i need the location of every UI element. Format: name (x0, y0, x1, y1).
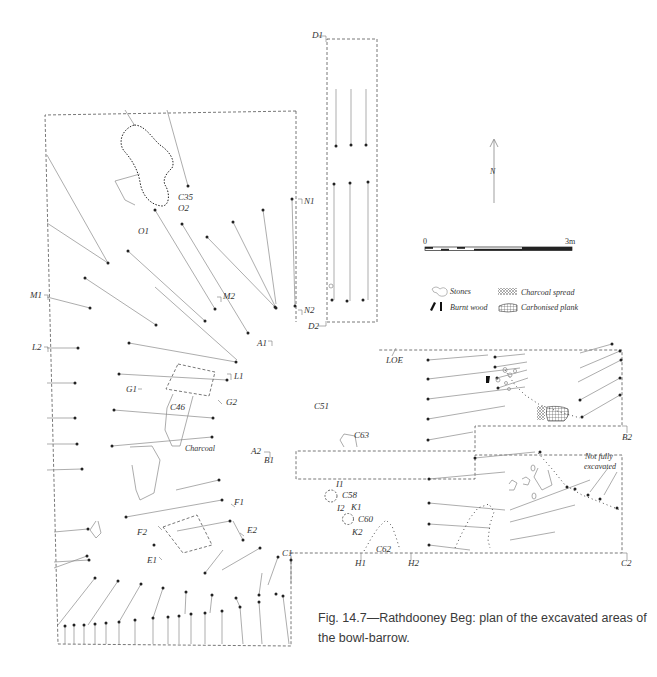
label-c63: C63 (354, 430, 370, 440)
label-k2: K2 (351, 527, 363, 537)
charcoal-spread-icon (498, 288, 517, 295)
label-loe: LOE (385, 355, 404, 365)
ring-ditch-arcs (364, 370, 620, 551)
svg-text:Carbonised plank: Carbonised plank (521, 303, 579, 312)
label-b1: B1 (264, 455, 274, 465)
label-c58: C58 (342, 490, 358, 500)
carbonised-plank-icon (499, 304, 517, 312)
svg-text:Burnt wood: Burnt wood (450, 303, 489, 312)
label-n1: N1 (303, 196, 315, 206)
label-c51: C51 (314, 401, 329, 411)
label-d2: D2 (307, 321, 319, 331)
trench-outlines (45, 39, 622, 646)
scale-bar: 0 3m (423, 237, 576, 251)
scale-start: 0 (423, 237, 427, 246)
label-k1: K1 (350, 502, 362, 512)
label-i1: I1 (335, 479, 344, 489)
label-c46: C46 (170, 402, 186, 412)
radial-section-lines (47, 155, 276, 573)
label-c1: C1 (282, 548, 293, 558)
svg-text:Stones: Stones (450, 287, 471, 296)
figure-caption: Fig. 14.7—Rathdooney Beg: plan of the ex… (318, 608, 648, 648)
label-f1: F1 (233, 497, 244, 507)
label-h2: H2 (407, 558, 419, 568)
stones-icon (432, 287, 447, 296)
north-arrow: N (489, 139, 498, 203)
excavation-plan: N 0 3m Stones Burnt wood Charcoal spread… (0, 0, 657, 677)
scale-end: 3m (565, 237, 576, 246)
label-n2: N2 (303, 305, 315, 315)
label-o1: O1 (138, 226, 149, 236)
label-f2: F2 (136, 527, 147, 537)
not-fully-excavated-line2: excavated (584, 462, 617, 471)
legend-item-charcoal-spread: Charcoal spread (498, 288, 575, 297)
label-g1: G1 (126, 384, 137, 394)
north-label: N (489, 167, 496, 176)
legend-item-burnt-wood: Burnt wood (430, 302, 489, 312)
charcoal-label: Charcoal (185, 444, 216, 453)
label-l2: L2 (31, 342, 42, 352)
label-a2: A2 (250, 446, 261, 456)
feature-c46 (90, 364, 215, 553)
label-h1: H1 (354, 558, 366, 568)
label-i2: I2 (336, 503, 345, 513)
label-a1: A1 (256, 338, 267, 348)
section-labels: D1 D2 N1 N2 M1 M2 L2 L1 A1 G1 G2 C35 O2 … (29, 30, 632, 568)
not-fully-excavated-line1: Not fully (584, 452, 613, 461)
eastern-section-lines (428, 344, 621, 550)
label-b2: B2 (622, 432, 632, 442)
label-m1: M1 (29, 290, 42, 300)
label-m2: M2 (222, 291, 235, 301)
label-e2: E2 (246, 525, 257, 535)
burnt-wood-icon (430, 302, 442, 311)
label-c62: C62 (376, 544, 392, 554)
label-d1: D1 (311, 30, 323, 40)
legend: Stones Burnt wood Charcoal spread Carbon… (430, 287, 579, 312)
legend-item-stones: Stones (432, 287, 471, 296)
label-l1: L1 (233, 371, 244, 381)
label-c35: C35 (178, 192, 194, 202)
southern-section-lines (58, 557, 291, 644)
label-c60: C60 (358, 514, 374, 524)
label-c2: C2 (621, 558, 632, 568)
label-o2: O2 (178, 203, 189, 213)
label-g2: G2 (226, 397, 237, 407)
legend-item-carbonised-plank: Carbonised plank (499, 303, 579, 312)
label-e1: E1 (146, 555, 157, 565)
svg-text:Charcoal spread: Charcoal spread (521, 288, 575, 297)
